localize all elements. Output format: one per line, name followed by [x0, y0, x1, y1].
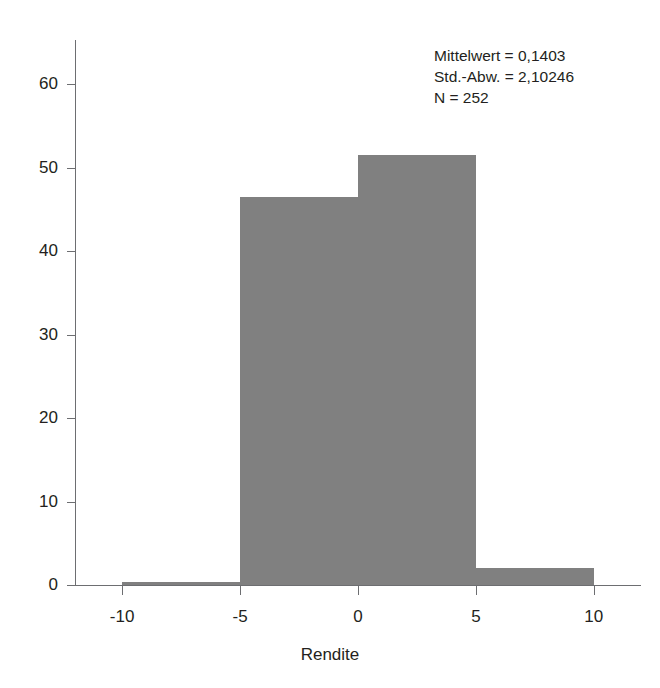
- histogram-figure: Histogramm 0102030405060 -10-50510 Rendi…: [0, 0, 660, 688]
- x-axis-tick-label: 5: [446, 608, 506, 626]
- x-axis-tick-label: -5: [210, 608, 270, 626]
- y-axis-tick-label: 60: [2, 75, 58, 92]
- x-axis-tick-label: 10: [564, 608, 624, 626]
- annotation-stddev: Std.-Abw. = 2,10246: [434, 66, 574, 87]
- y-axis-tick: [67, 585, 75, 586]
- y-axis-tick-label: 10: [2, 493, 58, 510]
- y-axis-tick: [67, 251, 75, 252]
- annotation-mean: Mittelwert = 0,1403: [434, 45, 574, 66]
- x-axis-tick: [240, 586, 241, 595]
- annotation-n: N = 252: [434, 87, 574, 108]
- statistics-annotation: Mittelwert = 0,1403 Std.-Abw. = 2,10246 …: [434, 45, 574, 108]
- x-axis-tick: [122, 586, 123, 595]
- histogram-bar: [240, 197, 358, 585]
- x-axis-tick: [476, 586, 477, 595]
- y-axis-tick: [67, 168, 75, 169]
- x-axis-tick: [358, 586, 359, 595]
- y-axis-tick-label: 20: [2, 409, 58, 426]
- y-axis-line: [75, 40, 76, 586]
- y-axis-tick-label: 50: [2, 159, 58, 176]
- x-axis-tick-label: -10: [92, 608, 152, 626]
- y-axis-tick: [67, 84, 75, 85]
- y-axis-tick: [67, 502, 75, 503]
- y-axis-tick-label: 40: [2, 242, 58, 259]
- y-axis-tick: [67, 418, 75, 419]
- histogram-bar: [358, 155, 476, 585]
- x-axis-tick-label: 0: [328, 608, 388, 626]
- y-axis-tick-label: 0: [2, 576, 58, 593]
- x-axis-title: Rendite: [0, 645, 660, 665]
- y-axis-tick-label: 30: [2, 326, 58, 343]
- histogram-bar: [476, 568, 594, 585]
- x-axis-tick: [594, 586, 595, 595]
- y-axis-tick: [67, 335, 75, 336]
